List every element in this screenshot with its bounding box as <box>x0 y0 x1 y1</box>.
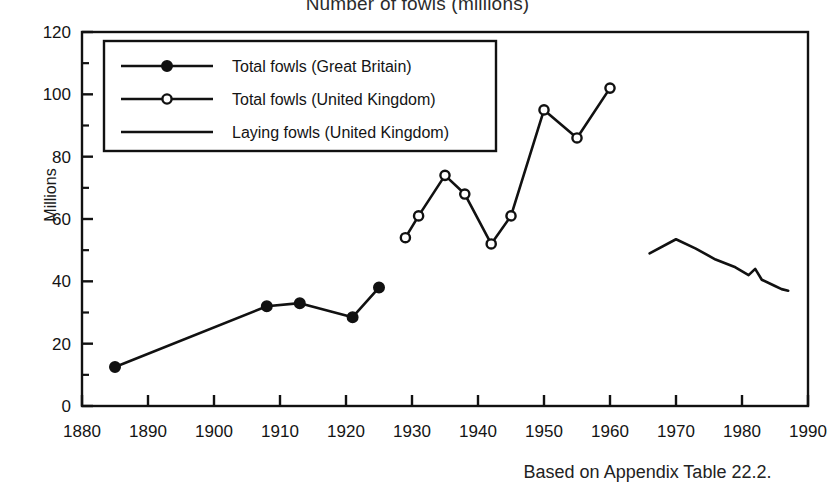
chart-title: Number of fowls (millions) <box>0 0 835 15</box>
data-point[interactable] <box>401 233 410 242</box>
x-tick-label: 1910 <box>261 422 299 441</box>
legend-box[interactable]: Total fowls (Great Britain)Total fowls (… <box>104 41 496 151</box>
y-tick-label: 20 <box>52 335 71 354</box>
y-tick-label: 120 <box>43 23 71 42</box>
legend-label: Laying fowls (United Kingdom) <box>232 124 449 141</box>
y-axis-title: Millions <box>42 150 60 240</box>
plot-area: 0204060801001201880189019001910192019301… <box>0 0 835 499</box>
chart-figure: Number of fowls (millions) Millions 0204… <box>0 0 835 499</box>
data-point[interactable] <box>572 133 581 142</box>
legend-marker-open-circle-icon <box>162 94 171 103</box>
data-point[interactable] <box>605 84 614 93</box>
y-tick-label: 100 <box>43 85 71 104</box>
data-point[interactable] <box>440 171 449 180</box>
data-point[interactable] <box>295 298 305 308</box>
x-tick-label: 1960 <box>591 422 629 441</box>
data-point[interactable] <box>487 239 496 248</box>
x-tick-label: 1950 <box>525 422 563 441</box>
source-note: Based on Appendix Table 22.2. <box>470 462 825 483</box>
data-point[interactable] <box>110 362 120 372</box>
x-tick-label: 1920 <box>327 422 365 441</box>
x-tick-label: 1980 <box>723 422 761 441</box>
y-tick-label: 40 <box>52 272 71 291</box>
series-line <box>115 288 379 367</box>
series-3 <box>650 239 789 290</box>
data-point[interactable] <box>414 211 423 220</box>
y-tick-label: 0 <box>62 397 71 416</box>
x-tick-label: 1890 <box>129 422 167 441</box>
x-tick-label: 1880 <box>63 422 101 441</box>
data-point[interactable] <box>347 312 357 322</box>
data-point[interactable] <box>506 211 515 220</box>
x-tick-label: 1940 <box>459 422 497 441</box>
legend-marker-filled-circle-icon <box>162 61 172 71</box>
data-point[interactable] <box>374 282 384 292</box>
data-point[interactable] <box>460 189 469 198</box>
series-line <box>650 239 789 290</box>
data-point[interactable] <box>539 105 548 114</box>
x-tick-label: 1970 <box>657 422 695 441</box>
legend-label: Total fowls (United Kingdom) <box>232 91 436 108</box>
x-tick-label: 1930 <box>393 422 431 441</box>
x-tick-label: 1990 <box>789 422 827 441</box>
series-1 <box>110 282 384 372</box>
data-point[interactable] <box>262 301 272 311</box>
legend-label: Total fowls (Great Britain) <box>232 58 412 75</box>
x-tick-label: 1900 <box>195 422 233 441</box>
